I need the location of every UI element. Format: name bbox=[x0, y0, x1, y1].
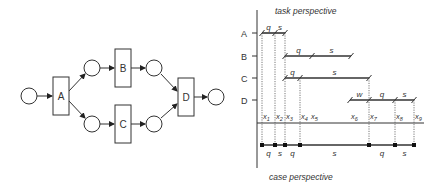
arc bbox=[69, 74, 85, 91]
case-segment-label: q bbox=[266, 149, 271, 158]
row-label-c: C bbox=[241, 74, 248, 84]
row-label-b: B bbox=[241, 52, 247, 62]
place-lower-2 bbox=[146, 116, 162, 132]
diagram-canvas: A B C D task perspective case perspectiv… bbox=[0, 0, 440, 186]
time-point-label: x1 bbox=[262, 112, 270, 122]
time-point-label: x2 bbox=[275, 112, 283, 122]
case-segment-label: s bbox=[403, 149, 407, 158]
time-point-label: x4 bbox=[300, 112, 308, 122]
time-point-label: x6 bbox=[350, 112, 359, 122]
segment-label: s bbox=[278, 23, 282, 32]
case-event-marker bbox=[412, 143, 416, 147]
place-upper-2 bbox=[146, 60, 162, 76]
segment-label: q bbox=[380, 90, 385, 99]
case-segment-label: s bbox=[333, 149, 337, 158]
timeline: task perspective case perspective AqsBqs… bbox=[241, 6, 424, 182]
case-event-marker bbox=[273, 143, 277, 147]
arc bbox=[161, 74, 177, 91]
case-perspective-title: case perspective bbox=[269, 172, 333, 182]
segment-label: s bbox=[403, 90, 407, 99]
case-segment-label: s bbox=[278, 149, 282, 158]
arc bbox=[69, 101, 85, 118]
transition-a-label: A bbox=[58, 91, 65, 102]
time-point-label: x5 bbox=[310, 112, 319, 122]
petri-net: A B C D bbox=[21, 49, 224, 143]
segment-label: s bbox=[330, 46, 334, 55]
time-point-label: x7 bbox=[369, 112, 378, 122]
segment-label: s bbox=[333, 68, 337, 77]
transition-d-label: D bbox=[182, 92, 189, 103]
place-start bbox=[21, 88, 37, 104]
segment-label: q bbox=[296, 46, 301, 55]
case-event-marker bbox=[393, 143, 397, 147]
row-label-d: D bbox=[241, 96, 248, 106]
transition-c-label: C bbox=[119, 119, 126, 130]
case-event-marker bbox=[260, 143, 264, 147]
place-lower-1 bbox=[84, 116, 100, 132]
row-label-a: A bbox=[241, 29, 247, 39]
case-event-marker bbox=[298, 143, 302, 147]
place-upper-1 bbox=[84, 60, 100, 76]
segment-label: q bbox=[290, 68, 295, 77]
time-point-label: x9 bbox=[414, 112, 422, 122]
transition-b-label: B bbox=[120, 63, 127, 74]
case-event-marker bbox=[283, 143, 287, 147]
segment-label: w bbox=[357, 90, 364, 99]
case-event-marker bbox=[367, 143, 371, 147]
segment-label: q bbox=[266, 23, 271, 32]
time-point-label: x8 bbox=[395, 112, 404, 122]
case-segment-label: q bbox=[380, 149, 385, 158]
place-end bbox=[208, 89, 224, 105]
time-point-label: x3 bbox=[285, 112, 294, 122]
case-segment-label: q bbox=[290, 149, 295, 158]
task-perspective-title: task perspective bbox=[275, 6, 337, 16]
arc bbox=[161, 104, 177, 118]
